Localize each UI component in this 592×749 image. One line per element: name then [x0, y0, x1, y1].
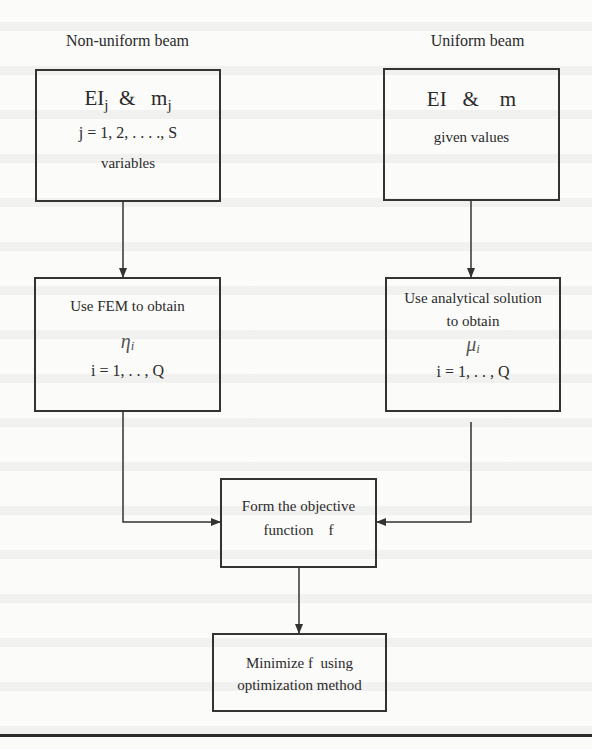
eta-glyph: η [121, 330, 131, 352]
minimize-box: Minimize f using optimization method [212, 633, 387, 712]
i-index-range: i = 1, . . , Q [36, 362, 219, 380]
variables-label: variables [37, 154, 219, 172]
objective-label-line2: function f [222, 521, 375, 539]
objective-function-box: Form the objective function f [220, 478, 377, 568]
objective-label-line1: Form the objective [222, 497, 375, 515]
mu-glyph: μ [466, 333, 476, 355]
mu-subscript: i [476, 341, 480, 356]
m-symbol: m [500, 87, 516, 111]
uniform-given-values-box: EI & m given values [383, 68, 560, 201]
analytical-label-line1: Use analytical solution [387, 289, 559, 307]
arrow-fem-to-objective [123, 411, 220, 522]
page-bottom-rule [0, 734, 592, 737]
eta-symbol: ηi [36, 329, 219, 358]
ampersand: & [119, 86, 135, 110]
ei-m-symbols-uniform: EI & m [385, 86, 558, 112]
mu-symbol: μi [387, 332, 559, 361]
ampersand: & [462, 87, 478, 111]
i-index-range: i = 1, . . , Q [387, 363, 559, 381]
minimize-label-line1: Minimize f using [214, 654, 385, 672]
analytical-process-box: Use analytical solution to obtain μi i =… [385, 277, 561, 412]
m-subscript: j [167, 97, 171, 113]
ei-symbol: EI [84, 86, 104, 110]
fem-label: Use FEM to obtain [36, 297, 219, 315]
j-index-range: j = 1, 2, . . . ., S [37, 124, 219, 142]
fem-process-box: Use FEM to obtain ηi i = 1, . . , Q [34, 277, 221, 412]
m-symbol: m [151, 86, 167, 110]
arrow-analytical-to-objective [377, 422, 471, 522]
analytical-label-line2: to obtain [387, 312, 559, 330]
ei-symbol: EI [427, 87, 447, 111]
minimize-label-line2: optimization method [214, 676, 385, 694]
ei-m-symbols: EIj & mj [37, 85, 219, 118]
nonuniform-variables-box: EIj & mj j = 1, 2, . . . ., S variables [35, 69, 221, 202]
eta-subscript: i [131, 338, 135, 353]
given-values-label: given values [385, 128, 558, 146]
ei-subscript: j [104, 97, 108, 113]
